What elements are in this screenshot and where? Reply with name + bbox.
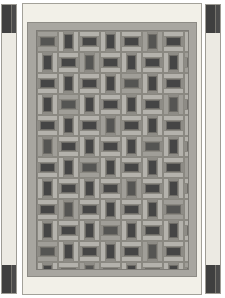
weave-unit <box>163 94 184 115</box>
weave-unit <box>58 220 79 241</box>
weave-unit <box>79 94 100 115</box>
weave-square <box>148 34 157 49</box>
weave-square <box>124 205 139 214</box>
right-strip-top-block <box>206 5 220 33</box>
weave-square <box>64 34 73 49</box>
weave-unit <box>163 73 184 94</box>
weave-unit <box>142 136 163 157</box>
weave-square <box>169 55 178 70</box>
weave-unit <box>184 241 188 262</box>
weave-square <box>40 163 55 172</box>
weave-square <box>106 76 115 91</box>
weave-unit <box>79 178 100 199</box>
weave-square <box>127 97 136 112</box>
weave-unit <box>121 241 142 262</box>
weave-unit <box>163 136 184 157</box>
weave-square <box>148 76 157 91</box>
weave-unit <box>184 199 188 220</box>
left-strip-bottom-block <box>2 265 16 293</box>
weave-square <box>106 34 115 49</box>
weave-square <box>85 265 94 269</box>
weave-square <box>43 181 52 196</box>
weave-unit <box>142 178 163 199</box>
weave-square <box>166 121 181 130</box>
weave-unit <box>163 31 184 52</box>
weave-square <box>40 205 55 214</box>
weave-square <box>64 160 73 175</box>
weave-unit <box>121 52 142 73</box>
weave-unit <box>184 157 188 178</box>
weave-square <box>166 37 181 46</box>
weave-unit <box>142 115 163 136</box>
weave-square <box>169 265 178 269</box>
weave-unit <box>79 262 100 269</box>
weave-unit <box>58 115 79 136</box>
panel-inner-frame <box>27 22 197 277</box>
weave-bar <box>184 157 188 178</box>
weave-unit <box>163 178 184 199</box>
weave-unit <box>184 31 188 52</box>
weave-unit <box>58 241 79 262</box>
right-strip-top-block-inner <box>206 5 216 33</box>
weave-square <box>187 58 188 67</box>
weave-unit <box>58 199 79 220</box>
weave-square <box>169 139 178 154</box>
weave-unit <box>163 157 184 178</box>
weave-square <box>103 58 118 67</box>
weave-unit <box>121 31 142 52</box>
weave-unit <box>58 31 79 52</box>
weave-unit <box>58 94 79 115</box>
weave-unit <box>100 115 121 136</box>
weave-unit <box>100 73 121 94</box>
weave-bar <box>184 199 188 220</box>
weave-unit <box>37 31 58 52</box>
right-strip-bottom-block-inner <box>206 265 216 293</box>
weave-square <box>127 139 136 154</box>
weave-square <box>124 163 139 172</box>
weave-unit <box>163 241 184 262</box>
weave-unit <box>100 157 121 178</box>
weave-square <box>148 160 157 175</box>
weave-unit <box>121 136 142 157</box>
weave-square <box>124 37 139 46</box>
weave-unit <box>79 157 100 178</box>
weave-square <box>127 223 136 238</box>
weave-square <box>43 97 52 112</box>
left-side-strip <box>1 4 17 294</box>
weave-square <box>166 79 181 88</box>
weave-square <box>127 181 136 196</box>
weave-unit <box>37 157 58 178</box>
weave-square <box>169 97 178 112</box>
weave-unit <box>184 52 188 73</box>
central-panel <box>22 3 202 295</box>
weave-square <box>64 118 73 133</box>
weave-square <box>40 121 55 130</box>
weave-unit <box>142 241 163 262</box>
weave-square <box>61 268 76 269</box>
weave-unit <box>79 199 100 220</box>
weave-square <box>124 121 139 130</box>
weave-square <box>166 163 181 172</box>
weave-square <box>106 118 115 133</box>
weave-bar <box>184 31 188 52</box>
weave-square <box>85 55 94 70</box>
weave-unit <box>184 73 188 94</box>
weave-square <box>148 202 157 217</box>
weave-unit <box>37 262 58 269</box>
weave-unit <box>37 178 58 199</box>
weave-square <box>85 223 94 238</box>
weave-unit <box>121 178 142 199</box>
weave-unit <box>184 262 188 269</box>
weave-square <box>103 226 118 235</box>
weave-unit <box>79 241 100 262</box>
weave-square <box>187 226 188 235</box>
weave-unit <box>58 157 79 178</box>
weave-unit <box>100 52 121 73</box>
weave-square <box>106 160 115 175</box>
weave-unit <box>79 220 100 241</box>
weave-unit <box>100 262 121 269</box>
weave-unit <box>37 241 58 262</box>
drawing-canvas <box>0 0 225 298</box>
weave-square <box>103 142 118 151</box>
weave-bar <box>184 241 188 262</box>
